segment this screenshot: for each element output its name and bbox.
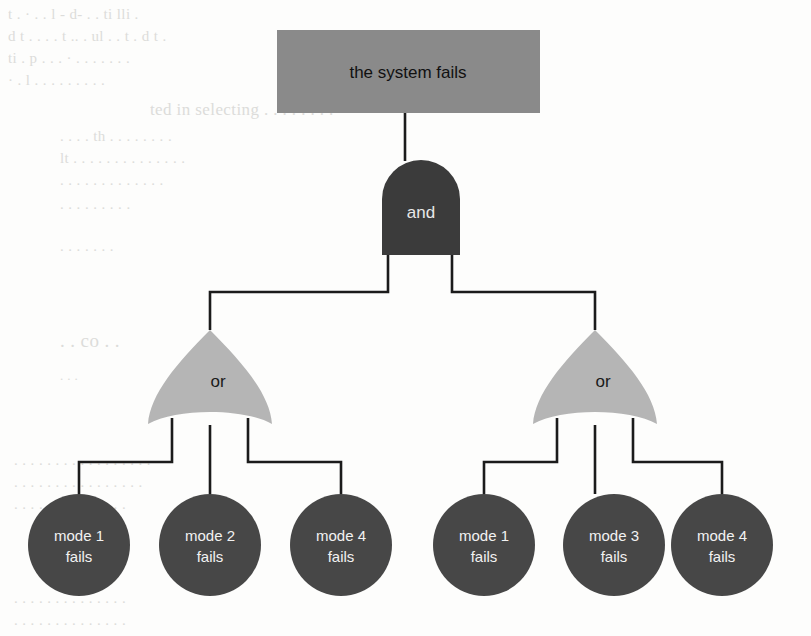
leaf-label-line2: fails	[197, 548, 224, 565]
leaf-node-left-3[interactable]: mode 4 fails	[290, 494, 392, 596]
edge-or-right-to-leaf-3	[633, 418, 722, 494]
or-gate-left-label: or	[210, 372, 225, 391]
leaf-label-line1: mode 3	[589, 527, 639, 544]
leaf-circle	[433, 494, 535, 596]
leaf-node-right-1[interactable]: mode 1 fails	[433, 494, 535, 596]
and-gate-node[interactable]: and	[382, 160, 460, 255]
leaf-label-line2: fails	[328, 548, 355, 565]
and-gate-label: and	[407, 203, 435, 222]
leaf-node-right-3[interactable]: mode 4 fails	[671, 494, 773, 596]
leaf-label-line2: fails	[601, 548, 628, 565]
fault-tree-canvas: the system fails and or or mode 1 fails …	[0, 0, 811, 636]
leaf-node-right-2[interactable]: mode 3 fails	[563, 494, 665, 596]
edge-or-right-to-leaf-1	[484, 418, 557, 494]
leaf-circle	[159, 494, 261, 596]
leaf-label-line1: mode 2	[185, 527, 235, 544]
leaf-label-line2: fails	[709, 548, 736, 565]
or-gate-left-node[interactable]: or	[148, 330, 272, 424]
leaf-circle	[28, 494, 130, 596]
fault-tree-diagram-page: t . · . . l - d- . . ti lli .d t . . . .…	[0, 0, 811, 636]
top-event-node[interactable]: the system fails	[277, 30, 540, 113]
leaf-node-left-1[interactable]: mode 1 fails	[28, 494, 130, 596]
leaf-circle	[290, 494, 392, 596]
leaf-label-line1: mode 1	[54, 527, 104, 544]
edge-and-gate-to-or-gate-right	[452, 255, 595, 330]
or-gate-right-node[interactable]: or	[533, 330, 657, 424]
or-gate-right-label: or	[595, 372, 610, 391]
leaf-circle	[671, 494, 773, 596]
leaf-label-line1: mode 4	[697, 527, 747, 544]
edge-or-left-to-leaf-3	[248, 418, 341, 494]
leaf-label-line2: fails	[471, 548, 498, 565]
edge-or-left-to-leaf-1	[79, 418, 172, 494]
top-event-label: the system fails	[349, 63, 466, 82]
edge-and-gate-to-or-gate-left	[210, 255, 388, 330]
leaf-label-line1: mode 4	[316, 527, 366, 544]
leaf-circle	[563, 494, 665, 596]
leaf-label-line2: fails	[66, 548, 93, 565]
leaf-label-line1: mode 1	[459, 527, 509, 544]
leaf-node-left-2[interactable]: mode 2 fails	[159, 494, 261, 596]
